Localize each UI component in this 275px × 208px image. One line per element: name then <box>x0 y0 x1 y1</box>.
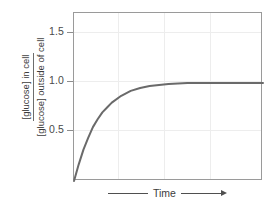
x-axis-rule-right <box>181 193 221 194</box>
arrow-right-icon <box>221 190 227 196</box>
y-axis-tick-label-1.5: 1.5 <box>24 26 64 37</box>
data-curve-svg <box>74 13 263 181</box>
x-axis-label: Time <box>73 185 262 201</box>
data-series-glucose-equilibration <box>74 83 263 181</box>
y-axis-label-numerator: [glucose] in cell <box>20 53 34 122</box>
y-axis-tick-label-1.0: 1.0 <box>24 75 64 86</box>
y-axis-tick-label-0.5: 0.5 <box>24 124 64 135</box>
x-axis-label-text: Time <box>153 187 176 199</box>
chart-figure: [glucose] in cell [glucose] outside of c… <box>0 0 275 208</box>
y-axis-label-denominator: [glucose] outside of cell <box>34 36 47 139</box>
x-axis-rule-left <box>108 193 148 194</box>
plot-area <box>73 12 262 180</box>
